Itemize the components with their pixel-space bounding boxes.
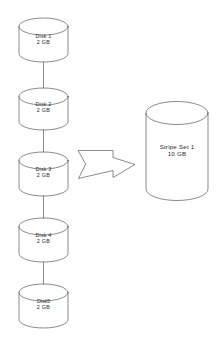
disk-cylinder-3[interactable]: [19, 152, 68, 196]
flow-arrow-icon: [79, 151, 136, 179]
disk-cylinder-5[interactable]: [19, 284, 68, 328]
diagram-canvas: [0, 0, 223, 356]
stripe-set-cylinder[interactable]: [146, 102, 208, 201]
disk-cylinder-1[interactable]: [19, 18, 68, 62]
disk-cylinder-4[interactable]: [19, 218, 68, 262]
disk-cylinder-2[interactable]: [19, 88, 68, 130]
